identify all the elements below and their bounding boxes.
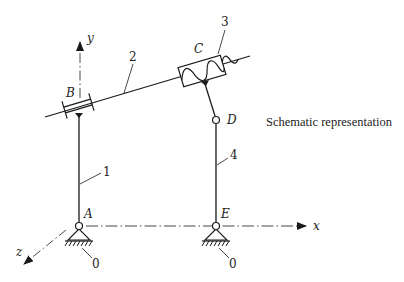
link-label-2: 2 bbox=[129, 50, 137, 64]
axis-label-x: x bbox=[313, 219, 320, 233]
ground-label-a: 0 bbox=[92, 257, 100, 271]
link-label-1: 1 bbox=[103, 165, 111, 179]
leader-link-4 bbox=[217, 158, 228, 165]
axis-label-z: z bbox=[15, 245, 23, 259]
joint-e bbox=[213, 223, 220, 230]
joint-label-a: A bbox=[83, 207, 93, 221]
leader-link-2 bbox=[124, 64, 133, 93]
screw-joint-c bbox=[178, 51, 241, 87]
link-label-3: 3 bbox=[221, 15, 229, 29]
joint-label-b: B bbox=[65, 86, 75, 100]
diagram-caption: Schematic representation bbox=[266, 115, 393, 129]
link-label-4: 4 bbox=[230, 148, 238, 162]
joint-d bbox=[213, 117, 220, 124]
axis-label-y: y bbox=[86, 31, 94, 45]
ground-support-a bbox=[65, 223, 93, 259]
z-axis bbox=[24, 230, 66, 264]
mechanism-diagram: y x z A B C D E 1 2 3 4 0 0 Schematic re… bbox=[0, 0, 404, 282]
leader-link-3 bbox=[218, 30, 225, 54]
joint-label-e: E bbox=[220, 207, 230, 221]
link-cd bbox=[205, 84, 215, 116]
joint-label-d: D bbox=[226, 113, 237, 127]
joint-label-c: C bbox=[194, 42, 203, 56]
ground-label-e: 0 bbox=[229, 257, 237, 271]
joint-a bbox=[76, 223, 83, 230]
leader-link-1 bbox=[80, 173, 101, 184]
ground-support-e bbox=[202, 223, 230, 259]
